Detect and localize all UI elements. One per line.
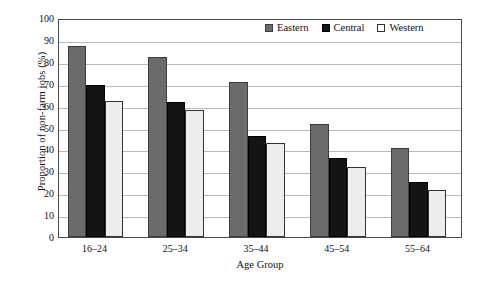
y-axis-tick-label: 10 <box>24 211 54 221</box>
legend-entry-eastern[interactable]: Eastern <box>265 22 309 33</box>
bar-16-24-western[interactable] <box>105 101 124 237</box>
bar-group <box>391 20 447 237</box>
bar-group <box>310 20 366 237</box>
bar-group <box>148 20 204 237</box>
legend-label: Western <box>389 22 423 33</box>
bar-55-64-eastern[interactable] <box>391 148 410 237</box>
bar-group <box>229 20 285 237</box>
x-axis-tick-label: 35–44 <box>211 243 301 254</box>
legend-label: Eastern <box>277 22 309 33</box>
y-axis-tick-label: 80 <box>24 58 54 68</box>
bar-55-64-western[interactable] <box>428 190 447 237</box>
bar-16-24-eastern[interactable] <box>68 46 87 237</box>
legend-swatch-icon <box>265 24 273 32</box>
y-axis-tick-label: 70 <box>24 80 54 90</box>
x-axis-tick-label: 45–54 <box>292 243 382 254</box>
plot-area <box>58 19 462 238</box>
bar-45-54-western[interactable] <box>347 167 366 237</box>
bar-35-44-central[interactable] <box>248 136 267 237</box>
x-axis-tick-label: 25–34 <box>130 243 220 254</box>
bar-45-54-central[interactable] <box>329 158 348 237</box>
bar-25-34-western[interactable] <box>185 110 204 237</box>
legend-entry-western[interactable]: Western <box>377 22 423 33</box>
bars-layer <box>59 20 461 237</box>
y-axis-tick-label: 30 <box>24 167 54 177</box>
legend-swatch-icon <box>322 24 330 32</box>
y-axis-tick-label: 100 <box>24 14 54 24</box>
legend-label: Central <box>334 22 365 33</box>
bar-16-24-central[interactable] <box>86 85 105 237</box>
chart-legend: EasternCentralWestern <box>262 21 427 34</box>
bar-35-44-western[interactable] <box>266 143 285 237</box>
bar-35-44-eastern[interactable] <box>229 82 248 237</box>
bar-group <box>68 20 124 237</box>
bar-25-34-central[interactable] <box>167 102 186 237</box>
y-axis-tick-label: 0 <box>24 233 54 243</box>
bar-25-34-eastern[interactable] <box>148 57 167 237</box>
y-axis-tick-label: 40 <box>24 145 54 155</box>
legend-swatch-icon <box>377 24 385 32</box>
y-axis-tick-label: 20 <box>24 189 54 199</box>
y-axis-tick-label: 60 <box>24 102 54 112</box>
x-axis-tick-label: 16–24 <box>49 243 139 254</box>
bar-chart-figure: Proportion of non-farm jobs (%) 01020304… <box>0 0 477 287</box>
x-axis-title: Age Group <box>58 259 462 270</box>
legend-entry-central[interactable]: Central <box>322 22 365 33</box>
y-axis-tick-label: 50 <box>24 124 54 134</box>
y-axis-tick-label: 90 <box>24 36 54 46</box>
bar-45-54-eastern[interactable] <box>310 124 329 237</box>
bar-55-64-central[interactable] <box>409 182 428 237</box>
x-axis-tick-label: 55–64 <box>373 243 463 254</box>
